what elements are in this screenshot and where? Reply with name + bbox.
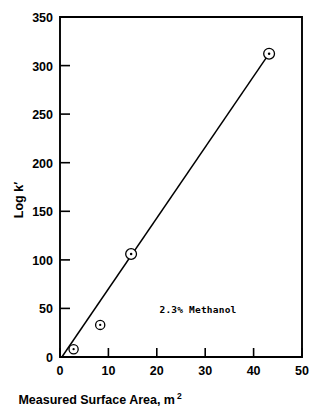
- x-axis-title: Measured Surface Area, m 2: [18, 391, 182, 407]
- marker-center-dot: [130, 253, 133, 256]
- data-point: [96, 320, 105, 329]
- x-axis-title-superscript: 2: [177, 391, 182, 401]
- x-axis-ticks: [60, 348, 302, 357]
- x-tick-label-20: 20: [150, 364, 164, 378]
- y-tick-label-150: 150: [32, 205, 53, 219]
- y-tick-label-300: 300: [32, 60, 53, 74]
- y-tick-label-0: 0: [46, 351, 53, 365]
- scatter-plot: 350 300 250 200 150 100 50 0 0 10 20 30 …: [0, 0, 328, 419]
- series-annotation-label: 2.3% Methanol: [160, 304, 237, 315]
- y-tick-label-100: 100: [32, 254, 53, 268]
- y-axis-tick-labels: 350 300 250 200 150 100 50 0: [32, 11, 53, 365]
- marker-center-dot: [268, 52, 271, 55]
- x-tick-label-10: 10: [101, 364, 115, 378]
- y-tick-label-200: 200: [32, 157, 53, 171]
- data-point: [126, 249, 137, 260]
- x-axis-title-main: Measured Surface Area, m: [18, 393, 175, 407]
- x-tick-label-40: 40: [247, 364, 261, 378]
- marker-center-dot: [72, 348, 74, 350]
- marker-center-dot: [99, 324, 101, 326]
- x-tick-label-0: 0: [57, 364, 64, 378]
- x-tick-label-30: 30: [198, 364, 212, 378]
- x-tick-label-50: 50: [295, 364, 309, 378]
- y-axis-ticks: [60, 17, 70, 357]
- data-point: [264, 48, 275, 59]
- y-axis-title: Log k′: [12, 182, 26, 218]
- y-tick-label-50: 50: [39, 302, 53, 316]
- y-tick-label-350: 350: [32, 11, 53, 25]
- chart-figure: 350 300 250 200 150 100 50 0 0 10 20 30 …: [0, 0, 328, 419]
- x-axis-tick-labels: 0 10 20 30 40 50: [57, 364, 309, 378]
- data-point: [69, 345, 78, 354]
- y-tick-label-250: 250: [32, 108, 53, 122]
